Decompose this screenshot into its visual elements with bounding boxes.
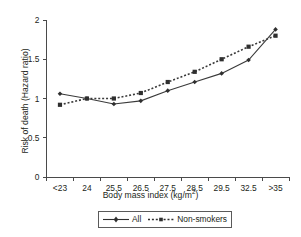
legend-item-non-smokers: Non-smokers [148,215,227,224]
series-all [58,27,278,106]
data-point-all [219,71,224,76]
data-point-non-smokers [193,70,197,74]
data-point-non-smokers [166,80,170,84]
data-point-non-smokers [112,96,116,100]
legend-item-all: All [103,215,141,224]
chart-legend: All Non-smokers [98,211,232,228]
y-axis-ticks [43,20,47,177]
data-point-all [165,88,170,93]
series-non-smokers [58,34,278,107]
y-tick-label: 1 [35,94,40,104]
data-point-all [58,91,63,96]
x-axis-title-base: Body mass index (kg/m [103,190,192,200]
chart-figure: 00.511.52 <232425.526.527.528.529.532.5>… [0,0,301,237]
y-tick-label: 2 [35,15,40,25]
chart-plot-area: 00.511.52 <232425.526.527.528.529.532.5>… [0,0,301,237]
legend-label-all: All [132,215,141,223]
y-axis: 00.511.52 [28,15,47,182]
data-point-non-smokers [58,103,62,107]
data-point-all [192,80,197,85]
data-point-non-smokers [220,57,224,61]
y-tick-label: 0 [35,172,40,182]
data-point-all [139,99,144,104]
x-axis-title: Body mass index (kg/m2) [0,190,301,200]
legend-swatch-all-icon [103,215,129,224]
data-point-non-smokers [139,91,143,95]
data-point-non-smokers [246,45,250,49]
x-axis-title-tail: ) [196,190,199,200]
data-point-all [112,102,117,107]
legend-swatch-non-smokers-icon [148,215,174,224]
legend-label-non-smokers: Non-smokers [177,215,227,223]
y-axis-title: Risk of death (Hazard ratio) [20,21,30,181]
data-point-non-smokers [273,34,277,38]
